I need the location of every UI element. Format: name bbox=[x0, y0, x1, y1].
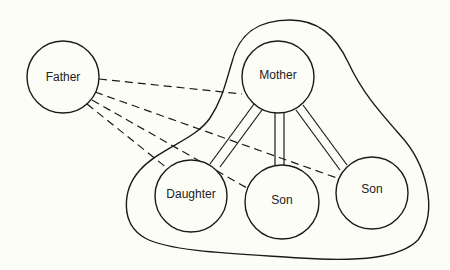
node-father: Father bbox=[27, 41, 99, 113]
node-son-middle: Son bbox=[245, 165, 319, 239]
node-label: Son bbox=[361, 182, 382, 196]
node-son-right: Son bbox=[336, 157, 408, 229]
node-label: Mother bbox=[259, 68, 296, 82]
node-label: Daughter bbox=[166, 187, 215, 201]
edge-mother-son2 bbox=[296, 105, 347, 170]
family-diagram: Father Mother Daughter Son Son bbox=[0, 0, 450, 270]
node-mother: Mother bbox=[242, 41, 314, 113]
node-label: Father bbox=[46, 70, 81, 84]
node-daughter: Daughter bbox=[155, 160, 227, 232]
node-label: Son bbox=[271, 193, 292, 207]
edge-father-mother bbox=[99, 79, 242, 94]
